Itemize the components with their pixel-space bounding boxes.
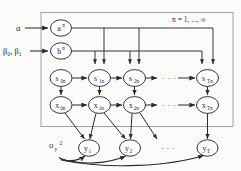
node-x1-sub: 1n [99,105,105,111]
node-sT[interactable]: s Tn [197,70,219,87]
plate-label: n = 1, ..., ∞ [172,15,206,24]
figure-canvas: n = 1, ..., ∞ α β₀, β₁ σ y 2 a n b n s 0… [0,0,241,171]
node-y2-base: y [125,144,129,153]
node-a-base: a [57,24,61,33]
node-y2-sub: 2 [130,148,133,154]
node-a-sup: n [62,22,65,28]
sigma-superscript: 2 [60,140,63,146]
beta-label: β₀, β₁ [3,46,22,56]
node-xT[interactable]: x Tn [197,97,219,114]
node-a[interactable]: a n [51,20,72,36]
node-x2-sub: 2n [134,105,140,111]
node-x0-base: x [55,101,59,110]
node-s1-sub: 1n [99,78,105,84]
node-x0[interactable]: x 0n [50,97,72,114]
sigma-glyph: σ [49,140,54,150]
node-y2[interactable]: y 2 [120,140,141,156]
node-s0-sub: 0n [60,78,66,84]
latent-row-ellipsis: · · · [162,101,176,110]
node-b-base: b [57,47,61,56]
node-s2[interactable]: s 2n [124,70,146,87]
arrow-x2-ellipsis-y [140,113,157,139]
node-sT-sub: Tn [207,78,213,84]
node-x2-base: x [129,101,133,110]
node-x1[interactable]: x 1n [89,97,111,114]
alpha-label: α [16,23,21,33]
node-b-sup: n [62,45,65,51]
node-b[interactable]: b n [51,43,72,59]
state-row-ellipsis: · · · [162,74,176,83]
node-s0-base: s [56,74,59,83]
node-s1[interactable]: s 1n [89,70,111,87]
node-x2[interactable]: x 2n [124,97,146,114]
node-sT-base: s [202,74,205,83]
sigma-y-squared-label: σ y 2 [49,140,63,152]
node-yT[interactable]: y T [197,140,218,156]
node-s2-base: s [129,74,132,83]
arrow-x1-y2 [104,113,126,139]
node-y1-sub: 1 [89,148,92,154]
arrow-x0-y1 [65,113,85,139]
node-x0-sub: 0n [60,105,66,111]
plate-diagram-svg: n = 1, ..., ∞ α β₀, β₁ σ y 2 a n b n s 0… [0,0,241,171]
node-s2-sub: 2n [134,78,140,84]
node-y1-base: y [84,144,88,153]
observed-row-ellipsis: · · · [161,144,175,153]
node-x1-base: x [94,101,98,110]
node-s1-base: s [94,74,97,83]
node-s0[interactable]: s 0n [50,70,72,87]
node-yT-base: y [203,144,207,153]
node-xT-base: x [202,101,206,110]
sigma-subscript: y [55,146,58,152]
node-xT-sub: Tn [207,105,213,111]
node-y1[interactable]: y 1 [79,140,100,156]
